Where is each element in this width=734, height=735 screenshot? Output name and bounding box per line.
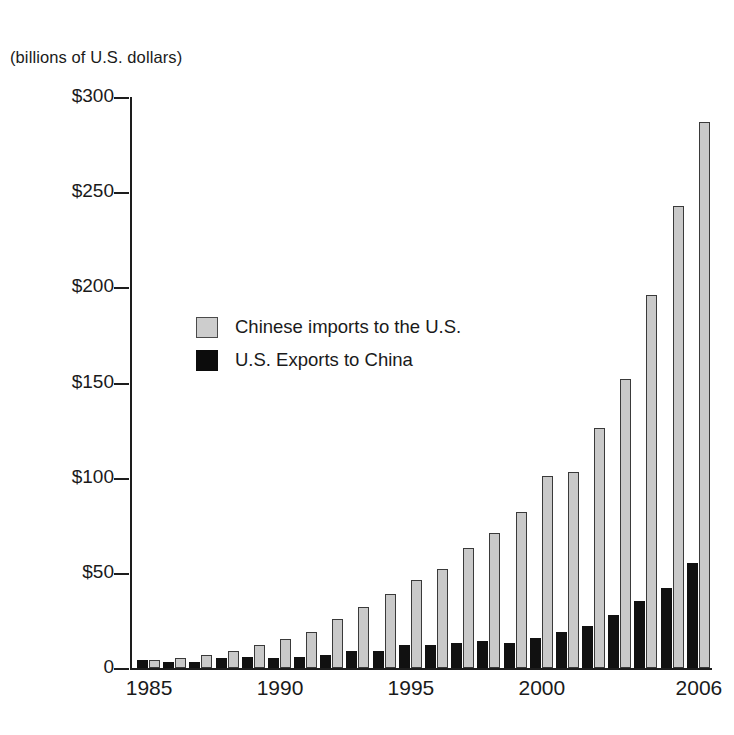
units-caption: (billions of U.S. dollars) bbox=[10, 48, 182, 67]
bar-exports bbox=[556, 632, 567, 668]
bar-exports bbox=[399, 645, 410, 668]
bar-imports bbox=[673, 206, 684, 669]
bar-exports bbox=[451, 643, 462, 668]
bar-group bbox=[242, 97, 267, 668]
bar-imports bbox=[463, 548, 474, 668]
bar-group bbox=[294, 97, 319, 668]
y-tick-label: $150 bbox=[24, 371, 114, 393]
bar-imports bbox=[516, 512, 527, 668]
y-tick-mark bbox=[114, 478, 129, 480]
bar-exports bbox=[137, 660, 148, 668]
bar-group bbox=[399, 97, 424, 668]
bar-exports bbox=[425, 645, 436, 668]
y-tick-mark bbox=[114, 573, 129, 575]
bar-exports bbox=[216, 658, 227, 668]
bar-exports bbox=[687, 563, 698, 668]
x-tick-label: 2000 bbox=[518, 676, 565, 700]
bar-group bbox=[268, 97, 293, 668]
x-axis-labels: 19851990199520002006 bbox=[136, 676, 712, 716]
y-tick-label: $250 bbox=[24, 180, 114, 202]
y-tick-mark bbox=[114, 668, 129, 670]
bar-group bbox=[477, 97, 502, 668]
imports-swatch-icon bbox=[196, 317, 218, 338]
bar-imports bbox=[594, 428, 605, 668]
bar-group bbox=[530, 97, 555, 668]
x-tick-label: 1995 bbox=[388, 676, 435, 700]
x-axis-line bbox=[130, 668, 712, 670]
bar-group bbox=[608, 97, 633, 668]
chart-figure: (billions of U.S. dollars) 0$50$100$150$… bbox=[0, 0, 734, 735]
bar-exports bbox=[189, 662, 200, 668]
bar-group bbox=[346, 97, 371, 668]
bar-group bbox=[451, 97, 476, 668]
bar-groups bbox=[136, 97, 712, 668]
bar-imports bbox=[489, 533, 500, 668]
bar-exports bbox=[163, 662, 174, 668]
bar-group bbox=[216, 97, 241, 668]
bar-exports bbox=[477, 641, 488, 668]
y-tick-label: $300 bbox=[24, 85, 114, 107]
bar-exports bbox=[346, 651, 357, 668]
bar-imports bbox=[542, 476, 553, 668]
legend-item-exports: U.S. Exports to China bbox=[196, 349, 461, 371]
y-tick-mark bbox=[114, 287, 129, 289]
y-tick-mark bbox=[114, 383, 129, 385]
bar-exports bbox=[634, 601, 645, 668]
bar-group bbox=[504, 97, 529, 668]
bar-exports bbox=[294, 657, 305, 668]
y-axis-line bbox=[130, 97, 132, 669]
legend-item-imports: Chinese imports to the U.S. bbox=[196, 316, 461, 338]
bar-imports bbox=[306, 632, 317, 668]
y-tick-label: $100 bbox=[24, 466, 114, 488]
bar-imports bbox=[646, 295, 657, 668]
bar-group bbox=[661, 97, 686, 668]
y-tick-label: $50 bbox=[24, 561, 114, 583]
bar-exports bbox=[582, 626, 593, 668]
legend-label-exports: U.S. Exports to China bbox=[235, 349, 413, 371]
bar-exports bbox=[530, 638, 541, 668]
x-tick-label: 2006 bbox=[676, 676, 723, 700]
bar-imports bbox=[149, 660, 160, 668]
bar-group bbox=[373, 97, 398, 668]
bar-imports bbox=[228, 651, 239, 668]
bar-group bbox=[137, 97, 162, 668]
bar-group bbox=[320, 97, 345, 668]
bar-exports bbox=[661, 588, 672, 668]
bar-group bbox=[687, 97, 712, 668]
bar-imports bbox=[280, 639, 291, 668]
bar-imports bbox=[254, 645, 265, 668]
y-axis-labels: 0$50$100$150$200$250$300 bbox=[14, 97, 114, 669]
bar-exports bbox=[608, 615, 619, 668]
bar-group bbox=[425, 97, 450, 668]
bar-imports bbox=[385, 594, 396, 668]
bar-imports bbox=[358, 607, 369, 668]
y-tick-mark bbox=[114, 192, 129, 194]
bar-imports bbox=[332, 619, 343, 668]
bar-group bbox=[163, 97, 188, 668]
bar-imports bbox=[437, 569, 448, 668]
bar-imports bbox=[620, 379, 631, 668]
plot-area: 0$50$100$150$200$250$300 bbox=[136, 97, 712, 668]
bar-exports bbox=[373, 651, 384, 668]
bar-imports bbox=[568, 472, 579, 668]
bar-exports bbox=[242, 657, 253, 668]
y-tick-label: $200 bbox=[24, 275, 114, 297]
bar-group bbox=[582, 97, 607, 668]
bar-group bbox=[556, 97, 581, 668]
bar-group bbox=[634, 97, 659, 668]
bar-exports bbox=[268, 658, 279, 668]
x-tick-label: 1990 bbox=[257, 676, 304, 700]
bar-imports bbox=[201, 655, 212, 668]
legend-label-imports: Chinese imports to the U.S. bbox=[235, 316, 461, 338]
chart-legend: Chinese imports to the U.S. U.S. Exports… bbox=[196, 316, 461, 371]
exports-swatch-icon bbox=[196, 350, 218, 371]
x-tick-label: 1985 bbox=[126, 676, 173, 700]
bar-exports bbox=[504, 643, 515, 668]
bar-group bbox=[189, 97, 214, 668]
bar-imports bbox=[175, 658, 186, 668]
bar-imports bbox=[411, 580, 422, 668]
bar-imports bbox=[699, 122, 710, 668]
y-tick-mark bbox=[114, 97, 129, 99]
y-tick-label: 0 bbox=[24, 656, 114, 678]
bar-exports bbox=[320, 655, 331, 668]
